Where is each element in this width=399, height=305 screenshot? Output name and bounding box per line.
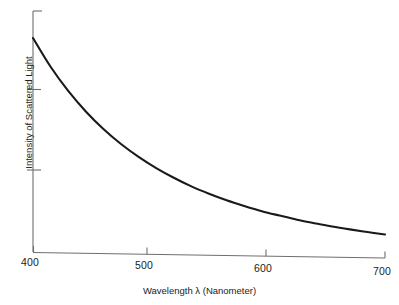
y-axis-title: Intensity of Scattered Light: [23, 33, 34, 193]
scattering-curve: [33, 38, 385, 234]
x-axis-line: [33, 253, 385, 259]
x-tick-label-700: 700: [373, 265, 391, 277]
x-tick-label-500: 500: [135, 259, 153, 271]
x-tick-label-400: 400: [21, 256, 39, 268]
scattering-plot: [0, 0, 399, 305]
x-axis-title: Wavelength λ (Nanometer): [0, 285, 399, 296]
chart-container: 400 500 600 700 Wavelength λ (Nanometer)…: [0, 0, 399, 305]
x-tick-label-600: 600: [254, 262, 272, 274]
